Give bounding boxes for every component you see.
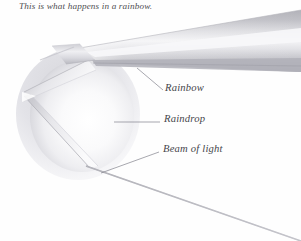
label-raindrop: Raindrop: [164, 113, 205, 124]
label-beam-of-light: Beam of light: [163, 143, 223, 154]
figure-title: This is what happens in a rainbow.: [19, 1, 152, 11]
leader-line-rainbow: [137, 68, 163, 90]
diagram-canvas: [0, 0, 301, 241]
rainbow-diagram: This is what happens in a rainbow. Rainb…: [0, 0, 301, 241]
label-rainbow: Rainbow: [165, 82, 204, 93]
incident-beam: [86, 166, 301, 241]
